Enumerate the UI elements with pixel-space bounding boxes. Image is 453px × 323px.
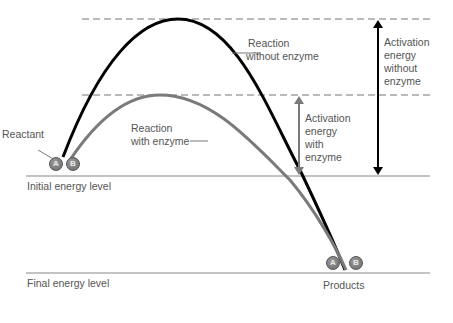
reactant-label: Reactant [2,128,44,141]
act-without-line2: energy [384,49,430,62]
act-with-line3: with [305,138,351,151]
reaction-without-enzyme-label: Reaction without enzyme [248,37,319,63]
act-with-line1: Activation [305,112,351,125]
product-molecule-b: B [349,256,363,270]
reaction-with-enzyme-label: Reaction with enzyme [131,122,189,148]
reactant-molecule-a: A [49,157,63,171]
act-with-line2: energy [305,125,351,138]
reaction-with-line2: with enzyme [131,135,189,148]
reactant-molecule-b: B [66,157,80,171]
energy-diagram: A B A B Reactant Initial energy level Fi… [0,0,453,323]
product-molecule-a: A [326,256,340,270]
products-label: Products [323,279,364,292]
act-with-line4: enzyme [305,151,351,164]
initial-energy-label: Initial energy level [27,180,111,193]
activation-energy-with-enzyme-label: Activation energy with enzyme [305,112,351,164]
activation-energy-without-enzyme-label: Activation energy without enzyme [384,36,430,88]
act-without-line3: without [384,62,430,75]
reaction-without-line2: without enzyme [246,50,319,63]
reaction-without-line1: Reaction [248,37,319,50]
act-without-line1: Activation [384,36,430,49]
final-energy-label: Final energy level [27,277,109,290]
reaction-with-line1: Reaction [131,122,189,135]
act-without-line4: enzyme [384,75,430,88]
